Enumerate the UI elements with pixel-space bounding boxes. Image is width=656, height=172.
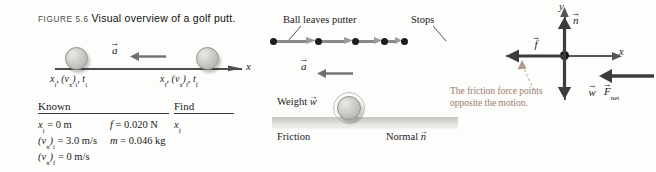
friction-force-label: →f <box>535 38 538 50</box>
motion-arrow-shaft-1 <box>276 40 307 42</box>
figure-caption: FIGURE 5.6 Visual overview of a golf put… <box>38 12 236 24</box>
known-x-initial: xi = 0 m <box>38 119 110 130</box>
pictorial-x-axis-label: x <box>246 60 251 72</box>
known-find-table: Known Find xi = 0 m f = 0.020 N xf (vx)i… <box>38 100 234 162</box>
table-row: xi = 0 m f = 0.020 N xf <box>38 119 234 130</box>
fbd-x-axis-label: x <box>619 46 624 57</box>
known-velocity-final: (vx)f = 0 m/s <box>38 151 110 162</box>
vector-arrow-overbar: → <box>603 80 612 89</box>
vector-arrow-overbar: → <box>299 55 308 64</box>
known-friction-force: f = 0.020 N <box>110 119 169 130</box>
weight-label: Weight →w <box>277 96 317 107</box>
surface-shadow <box>272 126 458 130</box>
pictorial-final-state-label: xf, (vx)f, tf <box>160 73 198 84</box>
pictorial-acceleration-vector: →a <box>112 44 172 64</box>
motion-stop-label: Stops <box>411 14 434 25</box>
acceleration-symbol-label: →a <box>112 44 118 56</box>
vector-arrow-overbar: → <box>309 92 318 101</box>
known-velocity-initial: (vx)i = 3.0 m/s <box>38 135 110 146</box>
putting-green-surface <box>272 117 458 126</box>
motion-arrow-shaft-3 <box>358 40 375 42</box>
known-mass: m = 0.046 kg <box>110 135 169 146</box>
golf-ball-initial <box>65 47 88 70</box>
motion-dot <box>352 38 359 45</box>
friction-label: Friction <box>277 131 310 142</box>
golf-ball-final <box>196 47 219 70</box>
pictorial-x-axis-arrow <box>228 68 242 70</box>
find-x-final: xf <box>174 119 234 130</box>
table-cell-empty <box>174 151 234 162</box>
normal-symbol: →n <box>421 131 426 142</box>
known-column-header: Known <box>38 100 169 114</box>
motion-start-label: Ball leaves putter <box>283 14 356 25</box>
acceleration-arrow-left <box>130 52 166 61</box>
table-row: (vx)f = 0 m/s <box>38 151 234 162</box>
vector-arrow-overbar: → <box>419 127 428 136</box>
table-row: (vx)i = 3.0 m/s m = 0.046 kg <box>38 135 234 146</box>
weight-force-arrow-down <box>557 57 572 99</box>
vector-arrow-overbar: → <box>110 39 119 48</box>
table-cell-empty <box>174 135 234 146</box>
golf-ball-on-surface <box>337 96 361 120</box>
vector-arrow-overbar: → <box>532 33 541 42</box>
figure-canvas: FIGURE 5.6 Visual overview of a golf put… <box>0 0 656 172</box>
normal-label: Normal →n <box>386 131 426 142</box>
acceleration-arrow-left <box>317 69 353 78</box>
acceleration-symbol-label: →a <box>301 60 307 72</box>
vector-arrow-overbar: → <box>571 9 580 18</box>
motion-dot <box>401 38 408 45</box>
motion-dot <box>315 38 322 45</box>
net-force-symbol: →F <box>604 85 611 97</box>
motion-dot <box>381 38 388 45</box>
motion-dot <box>270 38 277 45</box>
fbd-y-axis-label: y <box>559 1 564 12</box>
motion-diagram-dots <box>270 38 415 48</box>
table-cell-empty <box>110 151 169 162</box>
pictorial-initial-state-label: xi, (vx)i, ti <box>50 73 87 84</box>
find-column-header: Find <box>174 100 234 114</box>
net-force-label: →Fnet <box>604 85 619 97</box>
leader-line-stop <box>432 26 448 42</box>
figure-number: FIGURE 5.6 <box>38 15 89 24</box>
net-force-subscript: net <box>611 94 620 102</box>
vector-arrow-overbar: → <box>588 81 597 90</box>
table-header-row: Known Find <box>38 100 234 114</box>
friction-annotation-text: The friction force points opposite the m… <box>450 86 550 109</box>
motion-arrow-shaft-2 <box>321 40 345 42</box>
normal-force-label: →n <box>573 14 579 26</box>
weight-force-label: →w <box>589 86 596 98</box>
motion-acceleration-vector: →a <box>287 60 357 80</box>
weight-symbol: →w <box>310 96 317 107</box>
figure-title: Visual overview of a golf putt. <box>91 12 235 24</box>
